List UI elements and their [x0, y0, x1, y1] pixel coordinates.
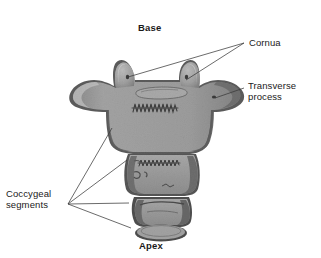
leader-segment-3	[68, 203, 129, 204]
coccygeal-segment-4	[135, 225, 187, 242]
label-base: Base	[138, 22, 162, 33]
label-coccygeal-segments: Coccygeal segments	[6, 188, 51, 210]
leader-segment-4	[68, 204, 131, 228]
label-cornua: Cornua	[249, 37, 281, 48]
label-transverse-process: Transverse process	[248, 80, 296, 102]
leader-segment-2	[68, 160, 127, 204]
coccygeal-segment-1	[69, 60, 244, 154]
label-apex: Apex	[139, 240, 163, 251]
segment-1-body	[73, 62, 240, 152]
segment-4-body	[137, 225, 185, 240]
coccygeal-segment-3	[132, 197, 192, 227]
coccyx-figure: Base Apex Cornua Transverse process Cocc…	[0, 0, 321, 258]
coccygeal-segment-2	[124, 154, 199, 196]
leader-segment-1	[68, 128, 112, 204]
articular-surface-outline	[136, 87, 187, 99]
articular-surface	[136, 87, 187, 99]
cornu-left	[115, 63, 134, 88]
